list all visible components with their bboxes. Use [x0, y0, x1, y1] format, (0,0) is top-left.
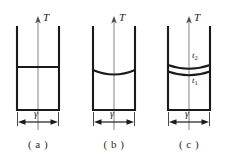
temperature-label-t2-sub: 2 — [195, 54, 198, 61]
gamma-label-b: γ — [110, 108, 114, 119]
panel-b: T γ ( b ) — [76, 0, 152, 162]
axis-label-T-c: T — [194, 11, 200, 23]
panel-caption-b: ( b ) — [76, 138, 152, 150]
panel-c: T t2 t1 γ ( c ) — [151, 0, 227, 162]
gamma-label-c: γ — [185, 108, 189, 119]
temperature-label-t2: t2 — [192, 50, 198, 60]
axis-label-T-a: T — [43, 11, 49, 23]
figure-container: T γ ( a ) T γ ( b ) — [0, 0, 227, 162]
gamma-label-a: γ — [34, 108, 38, 119]
axis-label-T-b: T — [119, 11, 125, 23]
temperature-label-t1-sub: 1 — [195, 79, 198, 86]
temperature-label-t1: t1 — [192, 75, 198, 85]
panel-caption-a: ( a ) — [0, 138, 76, 150]
panel-a: T γ ( a ) — [0, 0, 76, 162]
panel-caption-c: ( c ) — [151, 138, 227, 150]
